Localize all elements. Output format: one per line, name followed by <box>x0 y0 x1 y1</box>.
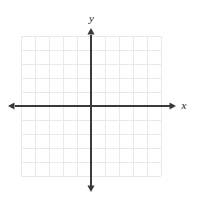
x-axis-label: x <box>181 99 187 111</box>
figure-background <box>0 0 197 203</box>
coordinate-plane-canvas: x y <box>0 0 197 203</box>
y-axis-label: y <box>88 12 94 24</box>
coordinate-plane-figure: x y <box>0 0 197 203</box>
